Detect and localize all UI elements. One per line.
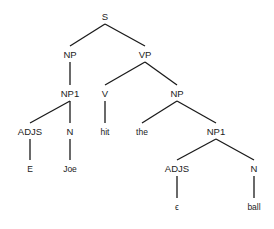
tree-edge-vp-to-np_b <box>145 62 177 85</box>
terminal-word-the: the <box>136 127 148 137</box>
tree-node-adjs_b: ADJS <box>165 163 189 174</box>
tree-edge-np_b-to-np1_b <box>177 101 216 123</box>
tree-edge-s-to-np_a <box>70 24 105 46</box>
tree-node-n_a: N <box>67 126 74 137</box>
tree-node-np_b: NP <box>170 88 183 99</box>
tree-node-v: V <box>102 88 109 99</box>
tree-node-np1_a: NP1 <box>61 88 79 99</box>
terminal-word-eps: ϵ <box>175 202 179 212</box>
tree-node-adjs_a: ADJS <box>18 126 42 137</box>
tree-edge-np1_a-to-adjs_a <box>30 101 70 123</box>
tree-node-vp: VP <box>139 49 152 60</box>
tree-node-np1_b: NP1 <box>207 126 225 137</box>
tree-edge-s-to-vp <box>105 24 145 46</box>
tree-edge-np1_b-to-adjs_b <box>177 139 216 160</box>
tree-node-s: S <box>102 11 108 22</box>
tree-nodes: SNPVPNP1VNPADJSNhittheNP1EJoeADJSNϵball <box>18 11 261 212</box>
terminal-word-e: E <box>27 164 33 174</box>
terminal-word-hit: hit <box>101 127 111 137</box>
tree-edge-vp-to-v <box>105 62 145 85</box>
tree-node-n_b: N <box>251 163 258 174</box>
tree-edge-np_b-to-the <box>142 101 177 123</box>
tree-edge-np1_b-to-n_b <box>216 139 254 160</box>
tree-node-np_a: NP <box>63 49 76 60</box>
terminal-word-joe: Joe <box>63 164 77 174</box>
parse-tree-diagram: SNPVPNP1VNPADJSNhittheNP1EJoeADJSNϵball <box>0 0 274 229</box>
terminal-word-ball: ball <box>247 202 260 212</box>
